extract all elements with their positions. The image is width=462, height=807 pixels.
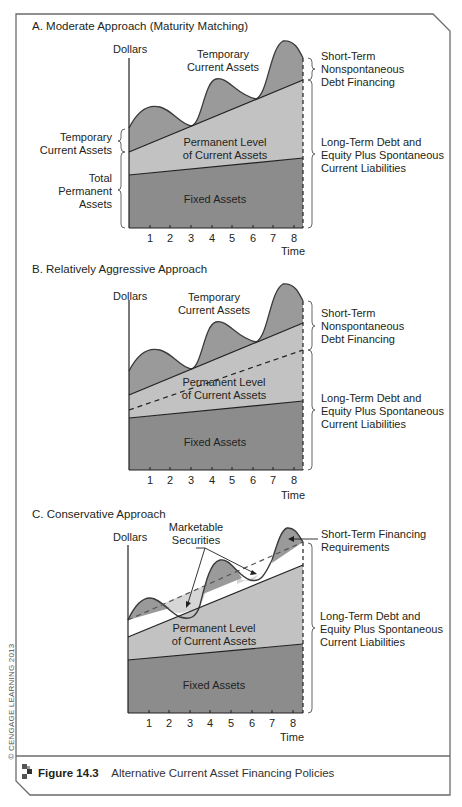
permanent-label: Permanent Level of Current Assets (159, 622, 269, 648)
label-line: Long-Term Debt and (320, 610, 443, 623)
y-axis-label: Dollars (113, 531, 147, 544)
tick-label: 7 (266, 717, 278, 729)
label-line: Short-Term Financing (321, 528, 426, 541)
tick-label: 4 (204, 717, 216, 729)
figure-caption: Figure 14.3 Alternative Current Asset Fi… (38, 767, 334, 779)
figure-number: Figure 14.3 (38, 767, 99, 779)
label-line: Marketable (160, 521, 232, 534)
label-line: Securities (160, 534, 232, 547)
tick-label: 5 (225, 717, 237, 729)
right-long-term-label: Long-Term Debt and Equity Plus Spontaneo… (320, 610, 443, 649)
label-line: Equity Plus Spontaneous (320, 623, 443, 636)
marketable-securities-label: Marketable Securities (160, 521, 232, 547)
tick-label: 1 (143, 717, 155, 729)
label-line: Current Liabilities (320, 636, 443, 649)
figure-marker-icon (22, 764, 38, 780)
copyright-text: © CENGAGE LEARNING 2013 (7, 650, 16, 760)
right-short-term-label: Short-Term Financing Requirements (321, 528, 426, 554)
label-line: Permanent Level (159, 622, 269, 635)
label-line: Requirements (321, 541, 426, 554)
tick-label: 2 (163, 717, 175, 729)
figure-title: Alternative Current Asset Financing Poli… (111, 767, 334, 779)
tick-label: 8 (287, 717, 299, 729)
label-line: of Current Assets (159, 635, 269, 648)
x-axis-label: Time (280, 731, 304, 744)
tick-label: 3 (184, 717, 196, 729)
tick-label: 6 (246, 717, 258, 729)
fixed-label: Fixed Assets (159, 679, 269, 692)
